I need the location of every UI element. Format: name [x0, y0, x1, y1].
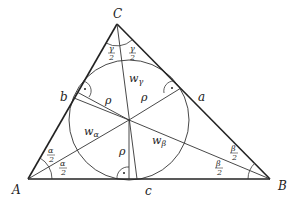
svg-text:α: α	[48, 146, 54, 155]
svg-text:2: 2	[231, 153, 237, 162]
svg-text:2: 2	[60, 168, 66, 177]
side-a	[117, 24, 270, 179]
half-alpha-lower: α 2	[59, 159, 67, 177]
svg-text:γ: γ	[130, 44, 135, 53]
svg-text:β: β	[230, 144, 236, 153]
side-b	[28, 24, 117, 179]
radius-to-a	[129, 88, 181, 120]
right-angle-dot-a	[171, 87, 173, 89]
svg-text:2: 2	[129, 53, 135, 62]
svg-text:2: 2	[216, 168, 222, 177]
svg-text:2: 2	[108, 53, 114, 62]
radius-to-b	[77, 92, 129, 120]
incircle-diagram: A B C a b c ρ ρ ρ wγ wα wβ γ 2 γ 2 α 2 α…	[0, 0, 301, 203]
rho-label-c: ρ	[118, 145, 126, 158]
bisector-w-beta	[129, 120, 270, 179]
bisector-w-alpha	[28, 120, 129, 179]
half-gamma-right: γ 2	[129, 44, 136, 62]
w-gamma-label: wγ	[129, 72, 143, 86]
side-label-a: a	[198, 90, 205, 104]
vertex-label-c: C	[113, 7, 122, 21]
vertex-label-a: A	[11, 183, 21, 197]
svg-text:β: β	[215, 159, 221, 168]
right-angle-arc-c	[117, 167, 129, 179]
svg-text:γ: γ	[109, 44, 114, 53]
rho-label-a: ρ	[140, 91, 148, 104]
side-label-b: b	[60, 90, 68, 104]
svg-text:2: 2	[48, 155, 54, 164]
svg-text:α: α	[60, 159, 66, 168]
right-angle-dot-c	[123, 172, 125, 174]
half-alpha-upper: α 2	[47, 146, 55, 164]
w-alpha-label: wα	[84, 125, 99, 139]
vertex-label-b: B	[277, 179, 287, 193]
right-angle-arc-a	[164, 81, 174, 93]
rho-label-b: ρ	[104, 94, 112, 107]
half-beta-upper: β 2	[230, 144, 238, 162]
side-label-c: c	[145, 184, 152, 198]
half-gamma-left: γ 2	[108, 44, 115, 62]
bisector-w-beta-ext	[74, 98, 129, 120]
right-angle-dot-b	[84, 88, 86, 90]
w-beta-label: wβ	[152, 134, 166, 148]
half-beta-lower: β 2	[215, 159, 223, 177]
